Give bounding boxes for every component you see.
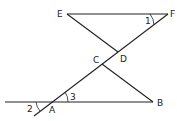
label-angle-2: 2 (27, 104, 33, 114)
geometry-diagram: E F D C B A 1 2 3 (0, 0, 177, 121)
label-angle-3: 3 (70, 92, 76, 102)
angle-2-arc (36, 102, 40, 111)
transversal-fa (34, 14, 168, 116)
label-d: D (120, 54, 127, 64)
label-f: F (170, 9, 175, 19)
label-e: E (57, 9, 63, 19)
label-angle-1: 1 (145, 16, 151, 26)
segment-cb (102, 64, 153, 102)
segment-ed (67, 14, 118, 52)
angle-3-arc (65, 92, 68, 102)
label-a: A (49, 105, 56, 115)
label-c: C (93, 55, 99, 65)
label-b: B (157, 98, 163, 108)
